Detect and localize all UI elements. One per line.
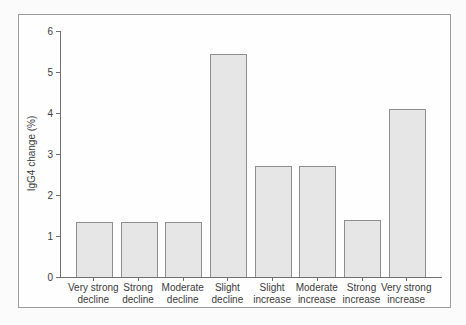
bar-3 xyxy=(165,222,202,277)
y-tick-label: 6 xyxy=(31,26,53,37)
bar-1 xyxy=(76,222,113,277)
x-category-label: Very strong increase xyxy=(371,282,441,305)
figure-canvas: IgG4 change (%) 0123456Very strong decli… xyxy=(0,0,466,325)
x-tick-mark xyxy=(362,278,363,281)
y-tick-label: 3 xyxy=(31,149,53,160)
bar-8 xyxy=(389,109,426,277)
x-tick-mark xyxy=(93,278,94,281)
x-tick-mark xyxy=(406,278,407,281)
y-tick-mark xyxy=(56,31,60,32)
y-tick-label: 1 xyxy=(31,231,53,242)
x-tick-mark xyxy=(227,278,228,281)
bar-2 xyxy=(121,222,158,277)
y-tick-mark xyxy=(56,113,60,114)
y-tick-mark xyxy=(56,195,60,196)
y-tick-mark xyxy=(56,72,60,73)
bar-5 xyxy=(255,166,292,277)
y-tick-label: 5 xyxy=(31,67,53,78)
y-tick-label: 0 xyxy=(31,272,53,283)
bar-7 xyxy=(344,220,381,277)
plot-area xyxy=(60,31,442,278)
x-tick-mark xyxy=(317,278,318,281)
x-tick-mark xyxy=(138,278,139,281)
chart-frame: IgG4 change (%) 0123456Very strong decli… xyxy=(18,14,451,308)
y-tick-label: 2 xyxy=(31,190,53,201)
y-tick-mark xyxy=(56,277,60,278)
y-tick-mark xyxy=(56,236,60,237)
x-tick-mark xyxy=(183,278,184,281)
y-tick-label: 4 xyxy=(31,108,53,119)
y-tick-mark xyxy=(56,154,60,155)
bar-4 xyxy=(210,54,247,277)
x-tick-mark xyxy=(272,278,273,281)
bar-6 xyxy=(299,166,336,277)
